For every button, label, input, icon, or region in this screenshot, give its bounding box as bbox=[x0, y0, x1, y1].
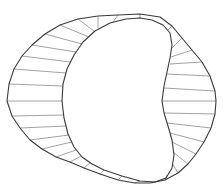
connector-line bbox=[172, 38, 182, 48]
connector-line bbox=[56, 150, 76, 157]
connector-line bbox=[164, 88, 215, 91]
connector-line bbox=[84, 163, 90, 168]
connector-line bbox=[12, 115, 64, 116]
connector-line bbox=[70, 156, 81, 162]
connector-line bbox=[118, 176, 122, 180]
connector-line bbox=[45, 34, 82, 44]
connector-line bbox=[9, 84, 63, 86]
connector-line bbox=[171, 50, 192, 57]
connector-line bbox=[30, 135, 69, 140]
connector-line bbox=[167, 123, 211, 128]
connector-line bbox=[42, 142, 72, 149]
connector-line bbox=[167, 74, 210, 76]
connector-line bbox=[170, 62, 202, 64]
curves-diagram bbox=[0, 0, 223, 195]
connector-line bbox=[60, 25, 89, 37]
connector-line bbox=[32, 45, 76, 52]
connector-line bbox=[78, 19, 94, 31]
connector-line bbox=[20, 126, 66, 128]
connector-line bbox=[100, 170, 104, 174]
connector-line bbox=[173, 152, 188, 164]
connector-line bbox=[172, 142, 196, 154]
connector-line bbox=[170, 133, 204, 142]
connector-line bbox=[14, 69, 66, 73]
connector-line bbox=[22, 56, 70, 62]
connector-line bbox=[168, 26, 172, 30]
connector-line bbox=[164, 113, 215, 114]
outer-curve bbox=[7, 14, 216, 183]
